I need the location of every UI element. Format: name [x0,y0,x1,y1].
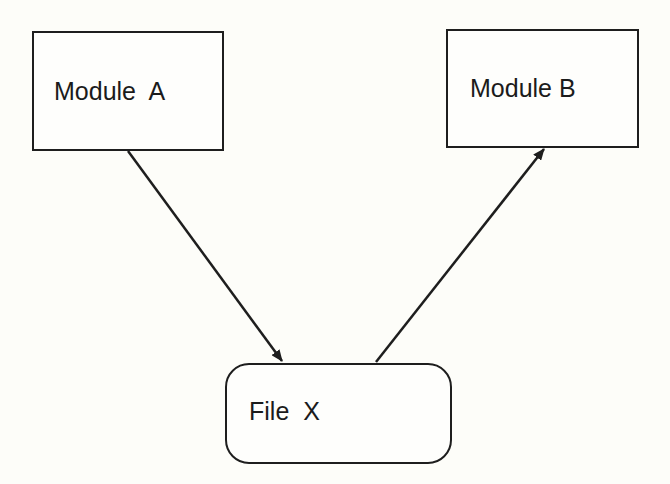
edge-module-a-to-file-x [128,151,282,361]
edge-file-x-to-module-b [376,149,544,362]
node-module-b[interactable]: Module B [446,29,639,148]
node-label: Module B [470,74,576,103]
node-module-a[interactable]: Module A [32,31,224,151]
node-label: File X [249,397,320,426]
node-file-x[interactable]: File X [225,363,452,464]
node-label: Module A [54,77,165,106]
